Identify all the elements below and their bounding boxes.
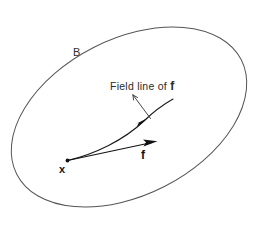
region-boundary-ellipse — [0, 0, 257, 231]
figure-vector-graphics — [0, 0, 257, 231]
field-line-curve — [68, 99, 174, 161]
figure-canvas: B x f Field line of f — [0, 0, 257, 231]
annotation-field-line-of-f: Field line of f — [110, 80, 174, 92]
field-line-arrowhead — [136, 118, 149, 128]
annotation-leader-line — [133, 95, 151, 119]
annotation-prefix-text: Field line of — [110, 80, 170, 92]
base-point-marker — [66, 159, 70, 163]
region-label-b: B — [73, 47, 81, 58]
vector-f-arrowhead — [143, 140, 158, 147]
annotation-symbol-f: f — [170, 79, 174, 93]
point-label-x: x — [59, 164, 65, 175]
vector-label-f: f — [141, 149, 145, 161]
